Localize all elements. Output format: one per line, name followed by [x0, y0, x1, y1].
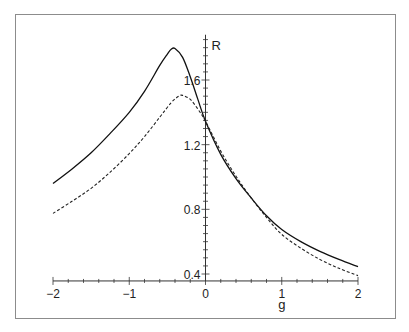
- x-tick-label: 0: [202, 287, 209, 301]
- x-axis-label: g: [278, 297, 285, 312]
- axes: −2−10120.40.81.21.6: [46, 35, 362, 301]
- y-tick-label: 0.4: [184, 268, 201, 282]
- y-axis-label: R: [212, 38, 221, 53]
- x-tick-label: −1: [122, 287, 136, 301]
- chart: −2−10120.40.81.21.6 g R: [0, 0, 409, 332]
- x-tick-label: 2: [355, 287, 362, 301]
- y-tick-label: 1.2: [184, 139, 201, 153]
- x-tick-label: −2: [46, 287, 60, 301]
- y-tick-label: 0.8: [184, 203, 201, 217]
